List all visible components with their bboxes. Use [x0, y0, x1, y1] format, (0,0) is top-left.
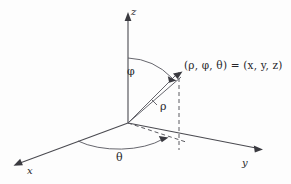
- point-coordinates-label: (ρ, φ, θ) = (x, y, z): [184, 60, 283, 71]
- x-axis-arrowhead: [14, 159, 23, 166]
- theta-angle-label: θ: [116, 152, 123, 163]
- x-axis-label: x: [27, 166, 33, 176]
- y-axis-arrowhead: [254, 146, 263, 153]
- theta-arc: [78, 139, 163, 149]
- y-axis-label: y: [242, 158, 248, 168]
- rho-label-tick: [152, 100, 157, 105]
- rho-radius-label: ρ: [160, 101, 166, 112]
- x-axis: [20, 123, 128, 163]
- theta-arc-arrowhead: [159, 136, 169, 142]
- z-axis-label: z: [131, 7, 136, 17]
- y-axis: [128, 123, 256, 148]
- rho-ray-lower-edge: [128, 77, 181, 123]
- phi-angle-label: φ: [127, 66, 135, 77]
- rho-ray-arrowhead: [173, 72, 183, 80]
- spherical-coordinates-diagram: z x y φ ρ θ (ρ, φ, θ) = (x, y, z): [0, 0, 291, 184]
